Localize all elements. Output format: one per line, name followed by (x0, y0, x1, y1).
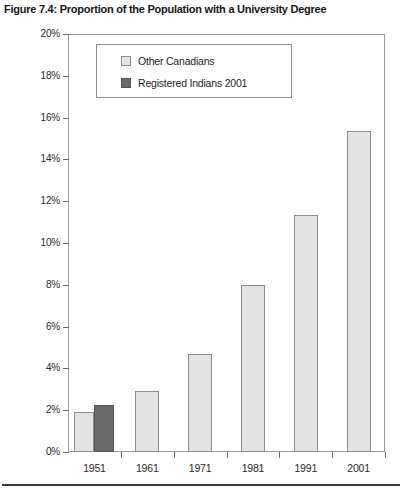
footer-divider (2, 484, 400, 486)
bar-1951-other-canadians (74, 412, 94, 452)
legend-item-label: Registered Indians 2001 (138, 77, 247, 89)
bar-1971-other-canadians (188, 354, 212, 452)
bar-1951-registered-indians (94, 405, 114, 452)
bar-1981-other-canadians (241, 285, 265, 452)
bar-2001-other-canadians (347, 131, 371, 452)
legend-swatch-icon (121, 78, 131, 88)
chart-legend: Other Canadians Registered Indians 2001 (96, 44, 292, 98)
legend-swatch-icon (121, 56, 131, 66)
legend-item-registered-indians: Registered Indians 2001 (121, 77, 247, 89)
legend-item-label: Other Canadians (138, 55, 214, 67)
bar-1991-other-canadians (294, 215, 318, 452)
bar-1961-other-canadians (135, 391, 159, 452)
legend-item-other-canadians: Other Canadians (121, 55, 214, 67)
